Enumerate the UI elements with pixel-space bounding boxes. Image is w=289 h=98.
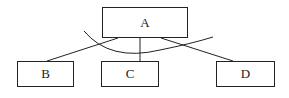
node-c: C — [101, 61, 159, 87]
node-d-label: D — [241, 66, 250, 82]
tree-diagram: A B C D — [0, 0, 289, 98]
node-d: D — [216, 61, 275, 87]
edge-a-b — [47, 38, 118, 61]
node-a-label: A — [140, 15, 149, 31]
node-a: A — [102, 7, 188, 38]
node-b-label: B — [41, 66, 50, 82]
node-b: B — [17, 61, 74, 87]
node-c-label: C — [126, 66, 135, 82]
